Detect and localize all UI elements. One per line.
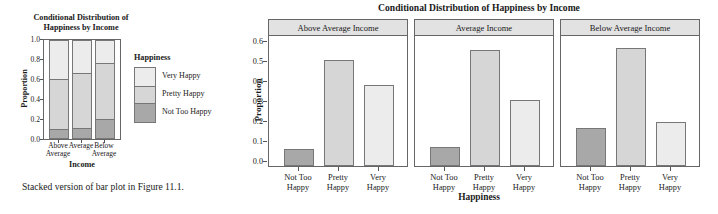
right-y-axis-ticks: 0.6 0.5 0.4 0.3 0.2 0.1 0.0 bbox=[243, 0, 263, 214]
bar-not-too-happy[interactable] bbox=[430, 147, 460, 166]
right-xtick-mark bbox=[590, 167, 591, 171]
stacked-bar-above-average[interactable] bbox=[49, 40, 69, 139]
right-ytick-mark bbox=[263, 161, 267, 162]
right-ytick-label: 0.3 bbox=[245, 98, 263, 106]
legend-swatch-column bbox=[134, 67, 156, 123]
bar-not-too-happy[interactable] bbox=[284, 149, 314, 166]
right-ytick-mark bbox=[263, 141, 267, 142]
bar-very-happy[interactable] bbox=[364, 85, 394, 166]
bar-very-happy[interactable] bbox=[656, 122, 686, 166]
legend-body: Very Happy Pretty Happy Not Too Happy bbox=[134, 67, 212, 123]
panel-average-income: Average Income bbox=[414, 19, 554, 167]
legend-swatch-very-happy bbox=[135, 68, 155, 86]
right-x-axis-label: Happiness bbox=[240, 192, 718, 202]
left-xtick-label-below-average: Below Average bbox=[87, 142, 121, 159]
bar-not-too-happy[interactable] bbox=[576, 128, 606, 166]
right-xtick-mark bbox=[338, 167, 339, 171]
left-title-line1: Conditional Distribution of bbox=[33, 13, 128, 22]
right-xtick-label-very-happy: VeryHappy bbox=[501, 173, 547, 192]
bar-very-happy[interactable] bbox=[510, 100, 540, 166]
stacked-bar-below-average[interactable] bbox=[95, 40, 115, 139]
legend-label-very-happy: Very Happy bbox=[162, 67, 212, 85]
segment-very-happy bbox=[96, 41, 114, 63]
right-ytick-label: 0.5 bbox=[245, 58, 263, 66]
panel-below-average-income: Below Average Income bbox=[560, 19, 700, 167]
left-ytick-label: 0.8 bbox=[23, 56, 40, 64]
panel-strip-label: Average Income bbox=[414, 19, 554, 36]
legend-label-column: Very Happy Pretty Happy Not Too Happy bbox=[162, 67, 212, 123]
right-xtick-mark bbox=[524, 167, 525, 171]
bar-pretty-happy[interactable] bbox=[324, 60, 354, 166]
left-x-axis-label: Income bbox=[43, 160, 121, 169]
right-xtick-mark bbox=[630, 167, 631, 171]
panel-strip-label: Above Average Income bbox=[268, 19, 408, 36]
right-ytick-label: 0.6 bbox=[245, 38, 263, 46]
panel-strip-label: Below Average Income bbox=[560, 19, 700, 36]
segment-not-too-happy bbox=[73, 129, 91, 138]
right-ytick-mark bbox=[263, 61, 267, 62]
panel-plot-area bbox=[414, 36, 554, 167]
left-ytick-label: 0.2 bbox=[23, 116, 40, 124]
right-ytick-mark bbox=[263, 101, 267, 102]
stacked-bar-average[interactable] bbox=[72, 40, 92, 139]
bar-pretty-happy[interactable] bbox=[470, 50, 500, 166]
right-ytick-label: 0.4 bbox=[245, 78, 263, 86]
legend-title: Happiness bbox=[134, 53, 212, 62]
segment-pretty-happy bbox=[50, 79, 68, 130]
legend-swatch-not-too-happy bbox=[135, 104, 155, 122]
right-ytick-label: 0.2 bbox=[245, 118, 263, 126]
right-ytick-mark bbox=[263, 81, 267, 82]
left-ytick-label: 0.0 bbox=[23, 136, 40, 144]
right-xtick-mark bbox=[298, 167, 299, 171]
left-ytick-label: 1.0 bbox=[23, 36, 40, 44]
left-ytick-label: 0.4 bbox=[23, 96, 40, 104]
right-xtick-mark bbox=[484, 167, 485, 171]
right-ytick-label: 0.1 bbox=[245, 138, 263, 146]
right-chart-title: Conditional Distribution of Happiness by… bbox=[240, 2, 718, 13]
right-xtick-mark bbox=[444, 167, 445, 171]
right-ytick-mark bbox=[263, 41, 267, 42]
figure-caption: Stacked version of bar plot in Figure 11… bbox=[22, 181, 184, 192]
stacked-bar-figure: Conditional Distribution of Happiness by… bbox=[0, 0, 240, 214]
segment-pretty-happy bbox=[96, 63, 114, 120]
right-ytick-mark bbox=[263, 121, 267, 122]
grouped-bar-figure: Conditional Distribution of Happiness by… bbox=[240, 0, 718, 214]
legend-swatch-pretty-happy bbox=[135, 86, 155, 104]
right-xtick-mark bbox=[670, 167, 671, 171]
panel-above-average-income: Above Average Income bbox=[268, 19, 408, 167]
left-plot-area bbox=[43, 39, 121, 140]
legend: Happiness Very Happy Pretty Happy Not To… bbox=[134, 53, 212, 123]
bar-pretty-happy[interactable] bbox=[616, 48, 646, 167]
panel-plot-area bbox=[560, 36, 700, 167]
segment-pretty-happy bbox=[73, 73, 91, 129]
segment-very-happy bbox=[73, 41, 91, 73]
segment-not-too-happy bbox=[50, 130, 68, 138]
right-xtick-mark bbox=[378, 167, 379, 171]
segment-very-happy bbox=[50, 41, 68, 79]
panel-plot-area bbox=[268, 36, 408, 167]
right-xtick-label-very-happy: VeryHappy bbox=[355, 173, 401, 192]
legend-label-pretty-happy: Pretty Happy bbox=[162, 85, 212, 103]
right-ytick-label: 0.0 bbox=[245, 158, 263, 166]
left-title-line2: Happiness by Income bbox=[43, 23, 118, 32]
left-ytick-label: 0.6 bbox=[23, 76, 40, 84]
legend-label-not-too-happy: Not Too Happy bbox=[162, 103, 212, 121]
right-xtick-label-very-happy: VeryHappy bbox=[647, 173, 693, 192]
segment-not-too-happy bbox=[96, 120, 114, 138]
